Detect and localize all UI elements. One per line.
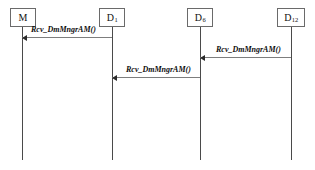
participant-label-d6: D [195, 13, 202, 23]
message-line-3 [112, 77, 200, 78]
message-arrowhead-1 [22, 35, 27, 41]
participant-box-d12: D12 [277, 8, 305, 27]
participant-subscript-d6: 6 [202, 17, 205, 24]
participant-subscript-d1: 1 [114, 17, 117, 24]
participant-label-d1: D [107, 13, 114, 23]
participant-box-d6: D6 [187, 8, 213, 27]
message-label-3: Rcv_DmMngrAM() [126, 66, 191, 74]
participant-subscript-d12: 12 [292, 17, 299, 24]
message-arrowhead-3 [112, 75, 117, 81]
message-arrowhead-2 [200, 55, 205, 61]
message-line-2 [200, 57, 291, 58]
message-line-1 [22, 37, 112, 38]
message-label-1: Rcv_DmMngrAM() [31, 26, 96, 34]
lifeline-d12 [291, 27, 292, 160]
participant-label-m: M [19, 13, 28, 23]
lifeline-m [22, 27, 23, 160]
sequence-diagram: M D1 D6 D12 Rcv_DmMngrAM() Rcv_DmMngrAM(… [0, 0, 315, 170]
lifeline-d1 [112, 27, 113, 160]
lifeline-d6 [200, 27, 201, 160]
participant-box-d1: D1 [99, 8, 125, 27]
participant-label-d12: D [284, 13, 291, 23]
message-label-2: Rcv_DmMngrAM() [216, 46, 281, 54]
